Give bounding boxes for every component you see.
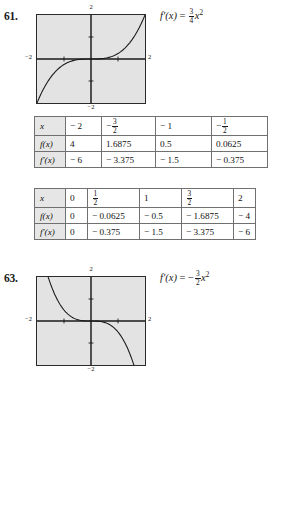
table-cell: − 2 [66, 117, 102, 136]
table-cell: − 3.375 [102, 152, 156, 168]
axis-label-y-max: 2 [36, 265, 146, 272]
fraction: 32 [112, 118, 118, 134]
table-row: f(x)0− 0.0625− 0.5− 1.6875− 4 [35, 208, 256, 224]
table-cell: − 0.5 [140, 208, 182, 224]
table-cell: − 0.375 [212, 152, 268, 168]
table-cell: 0 [66, 224, 88, 240]
axis-label-y-min: −2 [36, 103, 146, 110]
graph-plot [36, 14, 146, 104]
formula-equals: = [180, 272, 186, 283]
axis-label-x-max: 2 [148, 53, 151, 60]
row-label: f(x) [35, 208, 66, 224]
row-label: f′(x) [35, 224, 66, 240]
formula-exponent: 2 [199, 9, 203, 17]
table-cell: − 0.0625 [88, 208, 140, 224]
row-label: x [35, 189, 66, 208]
formula-fraction: 34 [189, 8, 195, 24]
fraction: 12 [93, 190, 99, 206]
problem-number: 63. [4, 272, 18, 284]
table-cell: −12 [212, 117, 268, 136]
table-row: f′(x)− 6− 3.375− 1.5− 0.375 [35, 152, 268, 168]
table-cell: 0.0625 [212, 136, 268, 152]
data-table-negative: x− 2−32− 1−12f(x)41.68750.50.0625f′(x)− … [34, 116, 268, 168]
axis-label-y-max: 2 [36, 3, 146, 10]
table-cell: 2 [234, 189, 256, 208]
table-cell: 1 [140, 189, 182, 208]
problem-61: 61.2−2−22f′(x) = 34x2x− 2−32− 1−12f(x)− … [0, 0, 283, 112]
table-row: x0121322 [35, 189, 256, 208]
table-cell: − 1 [156, 117, 212, 136]
table-cell: 32 [182, 189, 234, 208]
table-cell: − 0.375 [88, 224, 140, 240]
axis-label-x-min: −2 [25, 315, 32, 322]
formula-lhs: f′(x) [160, 272, 177, 283]
row-label: f′(x) [35, 152, 66, 168]
formula-fraction: 32 [195, 270, 201, 286]
row-label: f(x) [35, 136, 66, 152]
table-cell: −32 [102, 117, 156, 136]
formula-exponent: 2 [206, 271, 210, 279]
derivative-formula: f′(x) = −32x2 [160, 270, 209, 286]
table-cell: 1.6875 [102, 136, 156, 152]
table-cell: − 1.6875 [182, 208, 234, 224]
problem-63: 63.2−2−22f′(x) = −32x2x− 2−32− 1−12f(x)4… [0, 262, 283, 374]
table-row: f′(x)0− 0.375− 1.5− 3.375− 6 [35, 224, 256, 240]
table-cell: 12 [88, 189, 140, 208]
table-cell: − 1.5 [140, 224, 182, 240]
derivative-formula: f′(x) = 34x2 [160, 8, 203, 24]
problem-number: 61. [4, 10, 18, 22]
problem-header: 61.2−2−22f′(x) = 34x2 [0, 0, 283, 112]
table-cell: − 1.5 [156, 152, 212, 168]
axis-label-x-min: −2 [25, 53, 32, 60]
table-cell: 0 [66, 189, 88, 208]
table-cell: − 3.375 [182, 224, 234, 240]
table-row: f(x)41.68750.50.0625 [35, 136, 268, 152]
table-row: x− 2−32− 1−12 [35, 117, 268, 136]
table-cell: − 6 [234, 224, 256, 240]
table-cell: − 4 [234, 208, 256, 224]
problem-header: 63.2−2−22f′(x) = −32x2 [0, 262, 283, 374]
data-table-positive: x0121322f(x)0− 0.0625− 0.5− 1.6875− 4f′(… [34, 188, 256, 240]
axis-label-x-max: 2 [148, 315, 151, 322]
table-cell: − 6 [66, 152, 102, 168]
axis-label-y-min: −2 [36, 365, 146, 372]
fraction: 12 [222, 118, 228, 134]
table-cell: 0.5 [156, 136, 212, 152]
graph-plot [36, 276, 146, 366]
formula-equals: = [180, 10, 186, 21]
table-cell: 4 [66, 136, 102, 152]
fraction: 32 [187, 190, 193, 206]
table-cell: 0 [66, 208, 88, 224]
row-label: x [35, 117, 66, 136]
formula-lhs: f′(x) [160, 10, 177, 21]
